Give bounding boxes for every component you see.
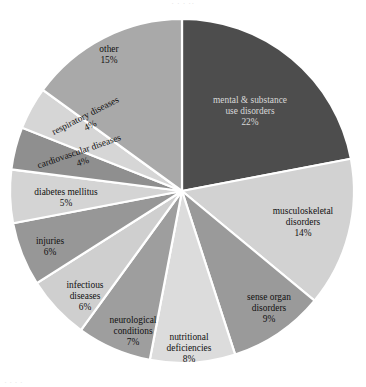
slice-label-line1: injuries xyxy=(36,236,64,246)
slice-label-line2: disorders xyxy=(252,303,286,313)
slice-percent: 22% xyxy=(198,117,302,128)
slice-label-line2: use disorders xyxy=(225,106,274,116)
slice-label-line1: mental & substance xyxy=(213,95,287,105)
slice-percent: 6% xyxy=(53,302,117,313)
slice-label-infectious-diseases: infectious diseases 6% xyxy=(53,280,117,313)
slice-label-line2: diseases xyxy=(70,291,101,301)
slice-percent: 7% xyxy=(95,337,171,348)
slice-percent: 6% xyxy=(25,247,75,258)
slice-label-musculoskeletal-disorders: musculoskeletal disorders 14% xyxy=(253,206,353,239)
clipped-footer-text: · · · · xyxy=(4,378,304,387)
slice-label-injuries: injuries 6% xyxy=(25,236,75,258)
slice-label-sense-organ-disorders: sense organ disorders 9% xyxy=(230,292,308,325)
slice-percent: 15% xyxy=(83,55,135,66)
slice-percent: 9% xyxy=(230,314,308,325)
slice-label-line1: nutritional xyxy=(169,332,208,342)
slice-percent: 14% xyxy=(253,228,353,239)
slice-label-diabetes-mellitus: diabetes mellitus 5% xyxy=(18,187,114,209)
slice-label-mental-substance-use-disorders: mental & substance use disorders 22% xyxy=(198,95,302,128)
slice-label-line2: conditions xyxy=(113,326,152,336)
slice-label-neurological-conditions: neurological conditions 7% xyxy=(95,315,171,348)
slice-label-other: other 15% xyxy=(83,44,135,66)
slice-percent: 8% xyxy=(153,354,225,365)
slice-label-line1: infectious xyxy=(67,280,104,290)
slice-label-line1: musculoskeletal xyxy=(273,206,333,216)
slice-label-line1: diabetes mellitus xyxy=(34,187,97,197)
slice-label-line1: neurological xyxy=(110,315,157,325)
slice-label-line2: disorders xyxy=(286,217,320,227)
slice-label-line1: sense organ xyxy=(247,292,291,302)
pie-chart-figure: · · · ·· mental & substance use disorder… xyxy=(0,0,366,387)
slice-percent: 5% xyxy=(18,198,114,209)
slice-label-line2: deficiencies xyxy=(167,343,212,353)
slice-label-line1: other xyxy=(99,44,118,54)
